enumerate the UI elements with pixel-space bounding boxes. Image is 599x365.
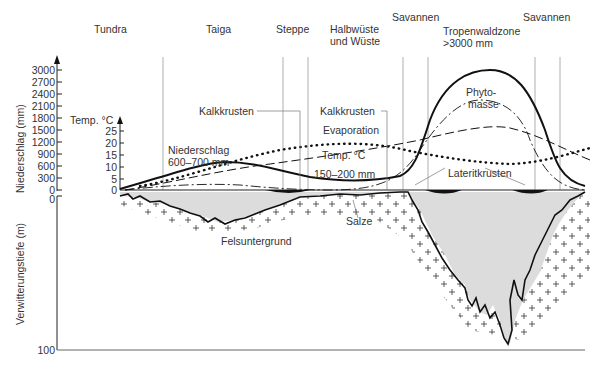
- zone-label-tropenwald: Tropenwaldzone: [443, 26, 520, 37]
- niederschlag-amount-label: 600–700 mm: [168, 157, 229, 168]
- lateritkrusten-label: Lateritkrusten: [448, 168, 512, 179]
- kalkkrusten-right-label: Kalkkrusten: [320, 106, 375, 117]
- zone-label-tropenwald-precip: >3000 mm: [443, 38, 493, 49]
- precip-tick: 2400: [21, 89, 55, 99]
- zone-label-savannen-right: Savannen: [523, 12, 570, 23]
- desert-precip-label: 150–200 mm: [314, 169, 375, 180]
- temp-tick: 15: [83, 150, 117, 160]
- weathering-zones-diagram: Tundra Taiga Steppe Halbwüste und Wüste …: [0, 0, 599, 365]
- precipitation-axis: [54, 55, 62, 191]
- temp-tick: 10: [83, 162, 117, 172]
- precip-tick: 900: [21, 149, 55, 159]
- zone-label-steppe: Steppe: [276, 24, 309, 35]
- felsuntergrund-label: Felsuntergrund: [221, 236, 292, 247]
- zone-label-wueste: und Wüste: [330, 36, 380, 47]
- precip-tick: 1200: [21, 137, 55, 147]
- zone-label-taiga: Taiga: [206, 24, 231, 35]
- kalkkrusten-left-label: Kalkkrusten: [199, 106, 254, 117]
- zone-label-halbwueste: Halbwüste: [330, 24, 379, 35]
- precip-tick: 300: [21, 173, 55, 183]
- temperature-axis: [117, 116, 124, 190]
- precip-tick: 2700: [21, 77, 55, 87]
- phytomasse-label-2: masse: [468, 99, 499, 110]
- zone-label-tundra: Tundra: [94, 24, 127, 35]
- depth-axis-title: Verwitterungstiefe (m): [14, 223, 26, 325]
- temp-tick: 20: [83, 138, 117, 148]
- precip-tick: 1500: [21, 125, 55, 135]
- temperature-curve-label: Temp. °C: [322, 150, 365, 161]
- temp-tick: 0: [83, 185, 117, 195]
- precip-tick: 3000: [21, 65, 55, 75]
- evaporation-label: Evaporation: [323, 125, 379, 136]
- precip-tick: 600: [21, 161, 55, 171]
- depth-tick: 0: [21, 194, 55, 204]
- salze-label: Salze: [346, 216, 372, 227]
- phytomasse-label-1: Phyto-: [466, 87, 496, 98]
- depth-tick: 100: [21, 345, 55, 355]
- niederschlag-label: Niederschlag: [168, 145, 229, 156]
- zone-label-savannen-left: Savannen: [392, 12, 439, 23]
- temp-tick: 25: [83, 126, 117, 136]
- precip-tick: 2100: [21, 101, 55, 111]
- precip-tick: 1800: [21, 113, 55, 123]
- temp-tick: 5: [83, 174, 117, 184]
